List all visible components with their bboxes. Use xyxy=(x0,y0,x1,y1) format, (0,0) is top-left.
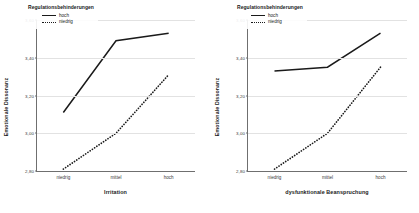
x-tick-label: hoch xyxy=(164,175,174,180)
y-tick-mark xyxy=(35,171,37,172)
legend-item-hoch: hoch xyxy=(42,13,94,18)
legend-label-hoch: hoch xyxy=(268,13,278,18)
series-line-hoch xyxy=(275,33,381,71)
legend-label-hoch: hoch xyxy=(59,13,69,18)
gridline xyxy=(37,58,195,59)
y-tick-label: 3,00 xyxy=(25,131,34,136)
legend-swatch-dotted-icon xyxy=(251,20,265,24)
series-line-niedrig xyxy=(275,67,381,169)
plot-area: 2,803,003,203,403,60niedrigmittelhoch xyxy=(247,20,407,172)
gridline xyxy=(37,96,195,97)
y-tick-label: 3,40 xyxy=(25,55,34,60)
legend-swatch-solid-icon xyxy=(251,13,265,17)
x-tick-label: niedrig xyxy=(268,175,282,180)
x-axis-title: dysfunktionale Beanspruchung xyxy=(247,189,407,195)
legend-title: Regulationsbehinderungen xyxy=(28,4,94,10)
chart-panel-dysfunktionale-beanspruchung: Emotionale Dissonanz 2,803,003,203,403,6… xyxy=(209,0,419,213)
x-axis-title: Irritation xyxy=(36,189,195,195)
legend-label-niedrig: niedrig xyxy=(59,19,73,24)
x-tick-label: mittel xyxy=(111,175,122,180)
legend-item-niedrig: niedrig xyxy=(251,19,303,24)
y-tick-label: 3,00 xyxy=(236,131,245,136)
y-tick-mark xyxy=(35,133,37,134)
gridline xyxy=(248,58,407,59)
x-tick-label: mittel xyxy=(322,175,333,180)
y-tick-label: 2,80 xyxy=(25,169,34,174)
y-tick-mark xyxy=(246,171,248,172)
y-tick-mark xyxy=(35,95,37,96)
y-tick-label: 3,20 xyxy=(25,93,34,98)
legend-swatch-solid-icon xyxy=(42,13,56,17)
gridline xyxy=(248,133,407,134)
legend-label-niedrig: niedrig xyxy=(268,19,282,24)
x-tick-label: hoch xyxy=(376,175,386,180)
gridline xyxy=(37,133,195,134)
figure-two-panel-line-charts: Emotionale Dissonanz 2,803,003,203,403,6… xyxy=(0,0,419,213)
plot-area: 2,803,003,203,403,60niedrigmittelhoch xyxy=(36,20,195,172)
legend-item-hoch: hoch xyxy=(251,13,303,18)
y-axis-title: Emotionale Dissonanz xyxy=(214,77,220,135)
y-tick-mark xyxy=(246,57,248,58)
y-tick-mark xyxy=(35,57,37,58)
legend-swatch-dotted-icon xyxy=(42,20,56,24)
series-line-hoch xyxy=(63,33,168,112)
chart-panel-irritation: Emotionale Dissonanz 2,803,003,203,403,6… xyxy=(0,0,209,213)
legend: Regulationsbehinderungen hoch niedrig xyxy=(24,2,98,29)
legend: Regulationsbehinderungen hoch niedrig xyxy=(233,2,307,29)
y-tick-mark xyxy=(246,95,248,96)
x-tick-label: niedrig xyxy=(56,175,70,180)
legend-item-niedrig: niedrig xyxy=(42,19,94,24)
legend-title: Regulationsbehinderungen xyxy=(237,4,303,10)
y-tick-label: 3,20 xyxy=(236,93,245,98)
gridline xyxy=(248,96,407,97)
series-line-niedrig xyxy=(63,75,168,169)
y-tick-label: 3,40 xyxy=(236,55,245,60)
y-tick-label: 2,80 xyxy=(236,169,245,174)
y-axis-title: Emotionale Dissonanz xyxy=(3,77,9,135)
y-tick-mark xyxy=(246,133,248,134)
